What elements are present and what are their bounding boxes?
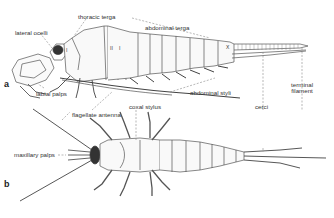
insect-anatomy-diagram: a b lateral ocelli thoracic terga abdomi… [0, 0, 334, 218]
eye-lateral [53, 46, 63, 55]
cercus-lower-dorsal [244, 160, 300, 168]
label-terminal-filament: terminal filament [291, 82, 313, 94]
thorax-dorsal [100, 138, 160, 172]
maxillary-palps-drawing [68, 150, 90, 160]
segment-mark-thorax-3: I [119, 46, 120, 51]
label-cerci: cerci [255, 104, 268, 110]
label-maxillary-palps: maxillary palps [14, 152, 55, 158]
cercus-upper-dorsal [244, 148, 302, 152]
label-flagellate-antenna: flagellate antenna [72, 112, 121, 118]
head-lateral [12, 54, 54, 86]
thorax-lateral [64, 26, 108, 82]
panel-label-b: b [4, 180, 10, 189]
lateral-view-drawing [12, 26, 308, 98]
panel-label-a: a [4, 80, 9, 89]
label-lateral-ocelli: lateral ocelli [15, 30, 48, 36]
segment-mark-thorax-1: I [66, 48, 67, 53]
antenna-lower [20, 160, 92, 201]
label-thoracic-terga: thoracic terga [78, 14, 116, 20]
segment-mark-abdomen-end: X [226, 45, 229, 50]
label-abdominal-terga: abdominal terga [145, 25, 189, 31]
terminal-filament-dorsal [244, 156, 326, 158]
diagram-drawing [0, 0, 334, 218]
label-terminal-filament-line2: filament [291, 87, 313, 94]
abdomen-lateral [108, 26, 234, 80]
label-labial-palps: labial palps [36, 91, 67, 97]
terminal-filament-lateral [234, 44, 308, 50]
head-dorsal [90, 146, 100, 164]
abdomen-dorsal [160, 140, 244, 172]
label-abdominal-styli: abdominal styli [190, 90, 231, 96]
segment-mark-thorax-2: II [110, 46, 113, 51]
label-coxal-stylus: coxal stylus [129, 104, 161, 110]
